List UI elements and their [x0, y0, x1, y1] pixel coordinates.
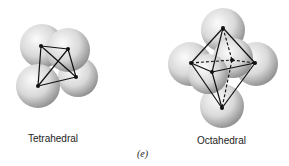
tetrahedral-diagram [16, 24, 98, 108]
octahedral-label: Octahedral [197, 135, 246, 146]
octahedral-diagram [168, 8, 278, 128]
figure-caption: (e) [137, 148, 148, 159]
tetrahedral-label: Tetrahedral [28, 133, 78, 144]
